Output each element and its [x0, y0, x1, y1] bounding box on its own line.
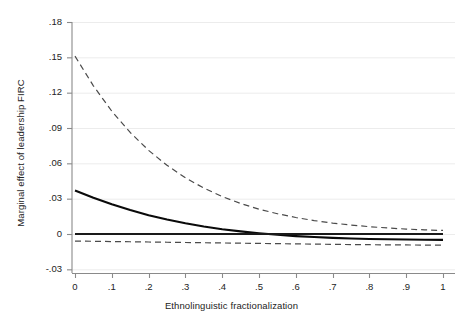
series-line-2: [75, 241, 443, 245]
x-tick-label: .1: [97, 281, 127, 292]
x-tick-label: .9: [391, 281, 421, 292]
y-axis-title: Marginal effect of leadership FIRC: [14, 13, 28, 293]
x-tick-label: .2: [134, 281, 164, 292]
axis-lines-group: [72, 22, 455, 274]
x-tick-label: 0: [60, 281, 90, 292]
x-axis-title: Ethnolinguistic fractionalization: [0, 300, 463, 311]
x-tick-label: .3: [170, 281, 200, 292]
y-tick-label: .03: [28, 192, 62, 203]
x-tick-label: .8: [354, 281, 384, 292]
y-tick-marks-group: [67, 23, 72, 270]
x-tick-label: 1: [428, 281, 458, 292]
x-tick-label: .6: [281, 281, 311, 292]
plot-canvas: [0, 0, 463, 328]
x-tick-label: .7: [318, 281, 348, 292]
y-tick-label: -.03: [28, 263, 62, 274]
y-tick-label: .18: [28, 16, 62, 27]
series-line-0: [75, 190, 443, 239]
y-tick-label: .15: [28, 51, 62, 62]
marginal-effects-chart: .18.15.12.09.06.030-.03 0.1.2.3.4.5.6.7.…: [0, 0, 463, 328]
data-series-group: [75, 56, 443, 245]
series-line-1: [75, 56, 443, 230]
y-tick-label: .06: [28, 157, 62, 168]
y-tick-label: .09: [28, 122, 62, 133]
y-tick-label: 0: [28, 228, 62, 239]
x-tick-label: .5: [244, 281, 274, 292]
y-tick-label: .12: [28, 86, 62, 97]
x-tick-label: .4: [207, 281, 237, 292]
